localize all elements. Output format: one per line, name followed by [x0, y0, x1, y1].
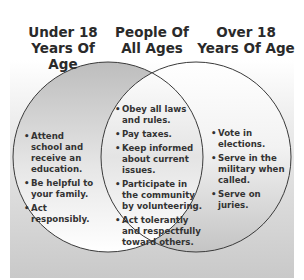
center-set-items: Obey all laws and rules. Pay taxes. Keep… [115, 104, 205, 251]
list-item: Serve on juries. [211, 189, 291, 211]
list-item: Act tolerantly and respectfully toward o… [115, 215, 205, 248]
right-set-items: Vote in elections. Serve in the military… [211, 128, 291, 214]
title-line: Years Of Age [15, 40, 111, 72]
list-item: Keep informed about current issues. [115, 143, 205, 176]
list-item: Attend school and receive an education. [24, 131, 96, 175]
list-item: Participate in the community by voluntee… [115, 179, 205, 212]
list-item: Pay taxes. [115, 129, 205, 140]
list-item: Serve in the military when called. [211, 153, 291, 186]
list-item: Act responsibly. [24, 203, 96, 225]
right-set-title: Over 18 Years Of Age [196, 24, 296, 56]
list-item: Be helpful to your family. [24, 178, 96, 200]
title-line: People Of [104, 24, 200, 40]
list-item: Obey all laws and rules. [115, 104, 205, 126]
left-set-items: Attend school and receive an education. … [24, 131, 96, 228]
title-line: Years Of Age [196, 40, 296, 56]
list-item: Vote in elections. [211, 128, 291, 150]
title-line: All Ages [104, 40, 200, 56]
title-line: Under 18 [15, 24, 111, 40]
title-line: Over 18 [196, 24, 296, 40]
left-set-title: Under 18 Years Of Age [15, 24, 111, 72]
center-set-title: People Of All Ages [104, 24, 200, 56]
